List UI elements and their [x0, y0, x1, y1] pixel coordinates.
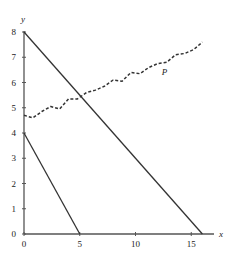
y-tick-label: 8 [12, 27, 17, 37]
y-tick-label: 5 [12, 103, 17, 113]
y-tick-label: 4 [12, 128, 17, 138]
line-upper [24, 32, 202, 234]
x-tick-label: 15 [187, 239, 197, 249]
x-axis-label: x [218, 229, 223, 239]
y-tick-label: 3 [12, 153, 17, 163]
labels-group: 012345678051015yxP [12, 14, 224, 249]
y-tick-label: 7 [12, 52, 17, 62]
line-lower [24, 133, 80, 234]
x-tick-label: 10 [131, 239, 141, 249]
y-axis-label: y [20, 14, 25, 24]
curve-p [24, 42, 202, 118]
y-tick-label: 0 [12, 229, 17, 239]
y-tick-label: 1 [12, 204, 17, 214]
x-tick-label: 0 [22, 239, 27, 249]
y-tick-label: 2 [12, 179, 17, 189]
y-tick-label: 6 [12, 78, 17, 88]
chart: 012345678051015yxP [0, 0, 234, 254]
curve-p-label: P [161, 67, 168, 77]
series-group [24, 32, 202, 234]
x-tick-label: 5 [78, 239, 83, 249]
